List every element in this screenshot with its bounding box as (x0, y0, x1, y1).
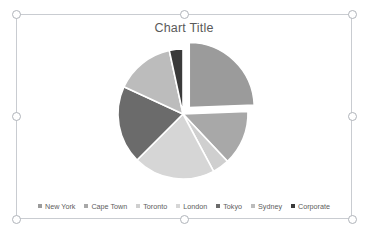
pie-chart[interactable] (17, 15, 353, 190)
legend-label: New York (45, 203, 75, 210)
legend-item-corporate[interactable]: Corporate (291, 203, 330, 210)
legend-item-cape-town[interactable]: Cape Town (84, 203, 127, 210)
selection-handle-top-center[interactable] (180, 10, 189, 19)
selection-handle-bottom-center[interactable] (180, 215, 189, 224)
selection-handle-bottom-right[interactable] (348, 215, 357, 224)
legend-label: Sydney (258, 203, 282, 210)
legend-label: Corporate (298, 203, 330, 210)
legend-label: London (183, 203, 207, 210)
pie-slice-group (118, 43, 254, 179)
legend-item-sydney[interactable]: Sydney (251, 203, 282, 210)
selection-handle-top-right[interactable] (348, 10, 357, 19)
plot-area[interactable] (17, 15, 353, 190)
selection-handle-middle-left[interactable] (12, 112, 21, 121)
legend-swatch-icon (251, 204, 255, 208)
legend-swatch-icon (38, 204, 42, 208)
legend-swatch-icon (216, 204, 220, 208)
selection-handle-top-left[interactable] (12, 10, 21, 19)
selection-handle-bottom-left[interactable] (12, 215, 21, 224)
legend-swatch-icon (291, 204, 295, 208)
legend-item-new-york[interactable]: New York (38, 203, 75, 210)
screenshot-canvas: Chart Title New YorkCape TownTorontoLond… (0, 0, 368, 233)
chart-object[interactable]: Chart Title New YorkCape TownTorontoLond… (16, 14, 352, 219)
legend-swatch-icon (136, 204, 140, 208)
legend-label: Cape Town (91, 203, 127, 210)
legend-label: Tokyo (223, 203, 242, 210)
legend-swatch-icon (176, 204, 180, 208)
legend-swatch-icon (84, 204, 88, 208)
legend-item-london[interactable]: London (176, 203, 207, 210)
legend-label: Toronto (143, 203, 167, 210)
pie-slice-new-york[interactable] (189, 43, 254, 108)
legend-item-toronto[interactable]: Toronto (136, 203, 167, 210)
legend-item-tokyo[interactable]: Tokyo (216, 203, 242, 210)
chart-legend[interactable]: New YorkCape TownTorontoLondonTokyoSydne… (17, 203, 351, 210)
selection-handle-middle-right[interactable] (348, 112, 357, 121)
